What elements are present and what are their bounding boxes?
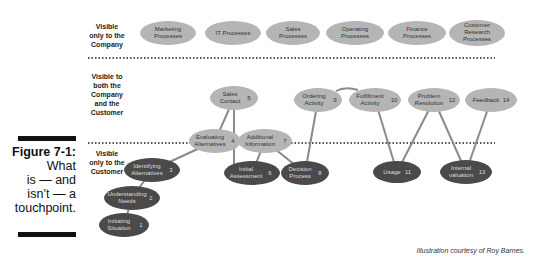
- touchpoint-10-fulfillment-activity: Fulfillment Activity 10: [349, 88, 401, 112]
- svg-text:Processes: Processes: [154, 33, 182, 39]
- svg-text:Activity: Activity: [360, 100, 379, 106]
- svg-text:valuation: valuation: [449, 172, 473, 178]
- touchpoint-8-decision-process: Decision Process 8: [281, 161, 329, 185]
- touchpoint-12-problem-resolution: Problem Resolution 12: [408, 88, 460, 112]
- svg-text:Marketing: Marketing: [155, 26, 181, 32]
- touchpoint-6-initial-assessment: Initial Assessment 6: [224, 161, 280, 185]
- svg-text:Information: Information: [245, 141, 275, 147]
- svg-text:Finance: Finance: [406, 26, 428, 32]
- svg-text:Activity: Activity: [304, 100, 323, 106]
- svg-text:Processes: Processes: [403, 33, 431, 39]
- svg-text:Process: Process: [289, 173, 311, 179]
- company-process-finance: Finance Processes: [388, 21, 446, 45]
- svg-text:Identifying: Identifying: [133, 163, 160, 169]
- touchpoint-1-initiating-situation: Initiating Situation 1: [99, 213, 149, 237]
- touchpoint-9-ordering-activity: Ordering Activity 9: [294, 88, 342, 112]
- svg-text:Feedback: Feedback: [473, 97, 500, 103]
- svg-text:Resolution: Resolution: [415, 100, 443, 106]
- svg-text:Situation: Situation: [107, 225, 130, 231]
- svg-text:Fulfillment: Fulfillment: [356, 93, 384, 99]
- svg-text:Usage: Usage: [383, 169, 401, 175]
- svg-text:Sales: Sales: [222, 91, 237, 97]
- touchpoint-3-identifying-alternatives: Identifying Alternatives 3: [124, 158, 180, 182]
- svg-text:Decision: Decision: [288, 166, 311, 172]
- company-process-it: IT Processes: [205, 21, 261, 45]
- svg-text:14: 14: [503, 97, 510, 103]
- svg-text:Needs: Needs: [118, 198, 135, 204]
- touchpoint-diagram: Marketing Processes IT Processes Sales P…: [0, 0, 539, 268]
- svg-text:Research: Research: [464, 29, 490, 35]
- svg-text:Alternatives: Alternatives: [194, 141, 225, 147]
- svg-text:Assessment: Assessment: [230, 173, 263, 179]
- svg-text:Contact: Contact: [220, 98, 241, 104]
- touchpoint-11-usage: Usage 11: [373, 161, 421, 183]
- touchpoint-5-sales-contact: Sales Contact 5: [210, 86, 258, 110]
- svg-text:Ordering: Ordering: [302, 93, 325, 99]
- company-process-operating: Operating Processes: [326, 21, 384, 45]
- svg-text:IT Processes: IT Processes: [216, 30, 251, 36]
- svg-text:Operating: Operating: [342, 26, 368, 32]
- illustration-credit: Illustration courtesy of Roy Barnes.: [416, 247, 525, 254]
- company-process-sales: Sales Processes: [266, 21, 320, 45]
- svg-text:12: 12: [449, 97, 456, 103]
- touchpoint-7-additional-information: Additional Information 7: [238, 129, 292, 153]
- touchpoint-2-understanding-needs: Understanding Needs 2: [104, 186, 160, 210]
- touchpoint-13-internal-valuation: Internal valuation 13: [440, 160, 492, 184]
- svg-text:Initiating: Initiating: [108, 218, 130, 224]
- touchpoint-4-evaluating-alternatives: Evaluating Alternatives 4: [189, 129, 241, 153]
- svg-text:10: 10: [391, 97, 398, 103]
- svg-text:Evaluating: Evaluating: [196, 134, 224, 140]
- svg-text:Processes: Processes: [341, 33, 369, 39]
- svg-text:Alternatives: Alternatives: [131, 170, 162, 176]
- svg-text:Additional: Additional: [247, 134, 273, 140]
- svg-text:Initial: Initial: [239, 166, 253, 172]
- svg-text:11: 11: [405, 169, 412, 175]
- svg-text:Processes: Processes: [279, 33, 307, 39]
- svg-text:Processes: Processes: [463, 36, 491, 42]
- svg-text:Sales: Sales: [285, 26, 300, 32]
- company-process-marketing: Marketing Processes: [140, 21, 196, 45]
- svg-text:Understanding: Understanding: [107, 191, 146, 197]
- svg-text:Problem: Problem: [418, 93, 440, 99]
- svg-text:Customer: Customer: [464, 22, 490, 28]
- company-process-customer-research: Customer Research Processes: [449, 20, 505, 46]
- svg-text:13: 13: [479, 169, 486, 175]
- touchpoint-14-feedback: Feedback 14: [465, 88, 517, 112]
- svg-text:Internal: Internal: [451, 165, 471, 171]
